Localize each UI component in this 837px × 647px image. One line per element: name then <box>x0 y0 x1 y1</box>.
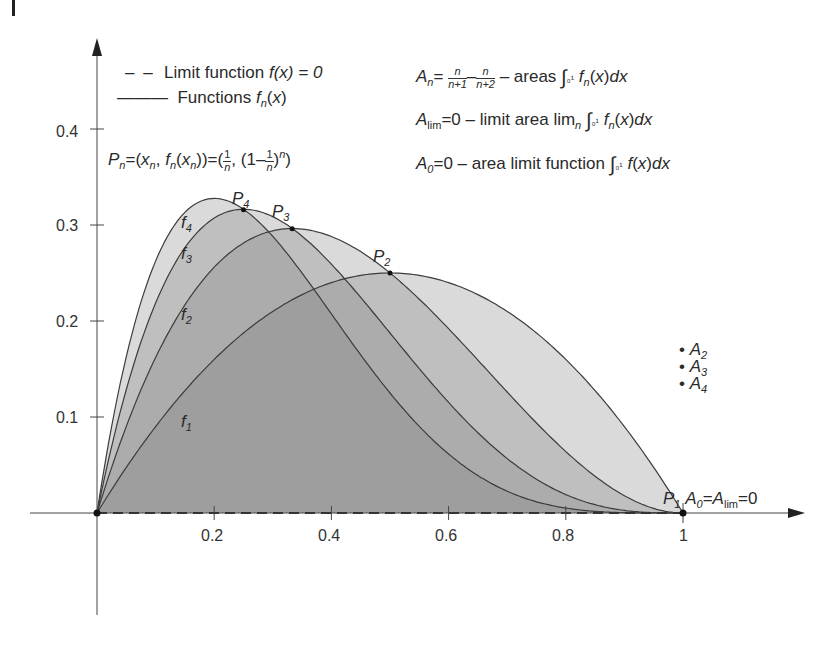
curve-label-f4: f4 <box>181 214 192 234</box>
point-label-p4: P4 <box>232 190 249 210</box>
y-tick-0.3: 0.3 <box>56 217 78 235</box>
x-axis-arrow-icon <box>788 508 805 518</box>
origin-point <box>94 510 101 517</box>
x-tick-1: 1 <box>679 527 688 545</box>
y-tick-0.1: 0.1 <box>56 409 78 427</box>
point-label-p2: P2 <box>373 248 390 268</box>
x-tick-0.6: 0.6 <box>435 527 457 545</box>
legend-dashed-label: Limit function <box>164 63 269 82</box>
annotation-a0: A0=0 – area limit function ∫₀¹ f(x)dx <box>416 154 670 175</box>
legend-dashed: – – Limit function f(x) = 0 <box>125 64 322 81</box>
y-axis-arrow-icon <box>92 38 102 56</box>
point-p2 <box>388 271 393 276</box>
x-tick-0.4: 0.4 <box>318 527 340 545</box>
chart-stage: – – Limit function f(x) = 0 ——— Function… <box>0 0 837 647</box>
legend-solid-label: Functions <box>177 88 255 107</box>
legend-dashed-expr: f(x) = 0 <box>269 63 322 82</box>
alim-desc: =0 – limit area lim <box>441 110 575 129</box>
a0-alim-value: =0 <box>738 489 757 508</box>
x-tick-0.2: 0.2 <box>201 527 223 545</box>
an-desc: – areas <box>495 67 561 86</box>
curve-label-f2: f2 <box>181 306 192 326</box>
curve-label-f1: f1 <box>181 413 192 433</box>
endpoint-1 <box>680 510 687 517</box>
curve-label-f3: f3 <box>181 245 192 265</box>
corner-mark <box>12 0 15 16</box>
y-tick-0.2: 0.2 <box>56 313 78 331</box>
point-label-p1: P1 A0=Alim=0 <box>663 490 757 510</box>
annotation-alim: Alim=0 – limit area limn ∫₀¹ fn(x)dx <box>416 110 652 131</box>
legend-solid: ——— Functions fn(x) <box>117 89 287 109</box>
annotation-an: An= nn+1–nn+2 – areas ∫₀¹ fn(x)dx <box>416 66 627 90</box>
point-label-p3: P3 <box>272 203 289 223</box>
point-p3 <box>290 226 295 231</box>
x-tick-0.8: 0.8 <box>552 527 574 545</box>
annotation-pn: Pn=(xn, fn(xn))=(1n, (1–1n)n) <box>108 149 291 174</box>
a0-desc: =0 – area limit function <box>433 154 609 173</box>
y-tick-0.4: 0.4 <box>56 123 78 141</box>
area-label-a4: • A4 <box>679 375 707 395</box>
